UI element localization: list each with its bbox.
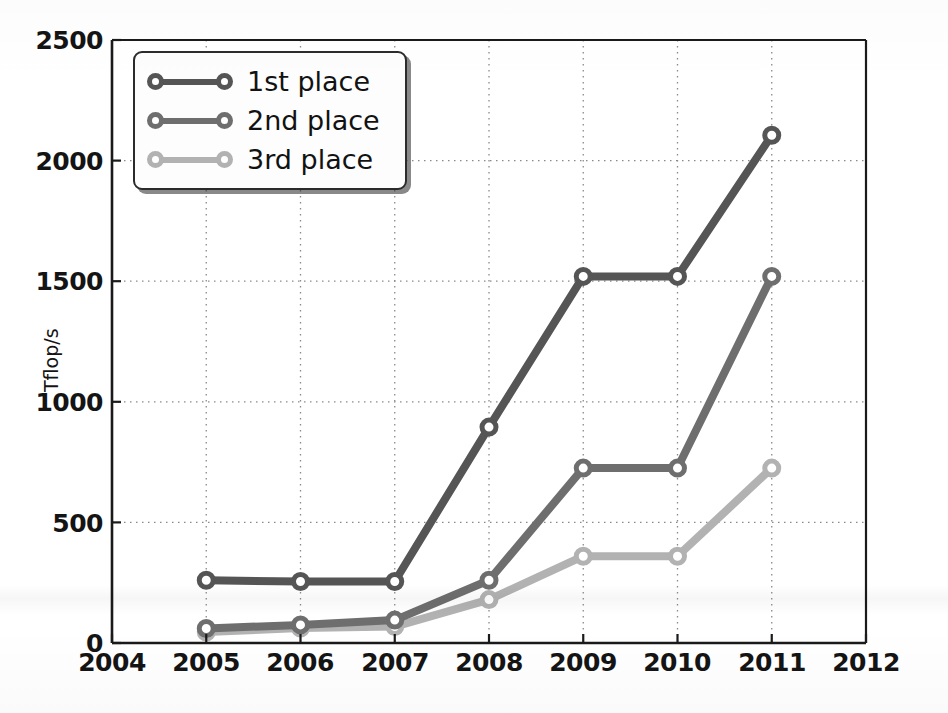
chart-figure: 2500 2000 1500 1000 500 0 2004 2005 2006… bbox=[0, 0, 948, 713]
legend-label-2nd-place: 2nd place bbox=[247, 107, 380, 134]
legend-swatch-2nd-place bbox=[147, 111, 233, 131]
y-tick-label-1000: 1000 bbox=[0, 388, 103, 417]
y-axis-label: Tflop/s bbox=[40, 328, 62, 392]
y-tick-label-500: 500 bbox=[0, 509, 103, 538]
legend-item-3rd-place[interactable]: 3rd place bbox=[147, 140, 389, 179]
legend-swatch-1st-place bbox=[147, 72, 233, 92]
legend-label-1st-place: 1st place bbox=[247, 68, 370, 95]
legend-swatch-3rd-place bbox=[147, 150, 233, 170]
chart-legend[interactable]: 1st place 2nd place 3rd place bbox=[133, 51, 407, 190]
y-tick-label-1500: 1500 bbox=[0, 267, 103, 296]
y-tick-label-2500: 2500 bbox=[0, 26, 103, 55]
y-tick-label-2000: 2000 bbox=[0, 147, 103, 176]
legend-label-3rd-place: 3rd place bbox=[247, 146, 373, 173]
legend-item-2nd-place[interactable]: 2nd place bbox=[147, 101, 389, 140]
x-tick-label-2012: 2012 bbox=[806, 648, 926, 677]
legend-item-1st-place[interactable]: 1st place bbox=[147, 62, 389, 101]
